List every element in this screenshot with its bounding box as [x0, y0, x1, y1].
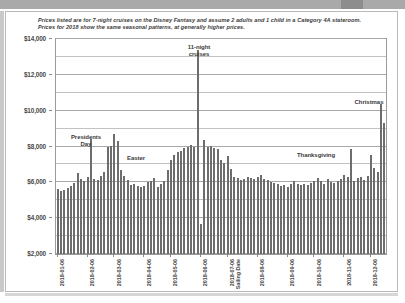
bar	[183, 148, 185, 254]
bar	[280, 186, 282, 254]
y-tick-mark	[49, 74, 52, 75]
bar	[297, 184, 299, 254]
y-tick-label: $8,000	[0, 142, 46, 149]
bar	[187, 147, 189, 255]
x-axis: 2018-01-062018-02-062018-03-062018-04-06…	[55, 254, 386, 302]
x-tick-mark	[200, 254, 201, 257]
x-tick-label: 2018-06-06	[202, 259, 208, 286]
bar	[80, 179, 82, 254]
bar	[160, 184, 162, 254]
bar	[333, 183, 335, 254]
bar	[127, 180, 129, 254]
bar	[327, 179, 329, 254]
bar	[263, 179, 265, 254]
bar	[110, 146, 112, 254]
x-tick-mark	[313, 254, 314, 257]
annotation-presidents-day: Presidents Day	[62, 134, 110, 148]
bar	[97, 180, 99, 254]
bar	[293, 181, 295, 254]
bar	[370, 155, 372, 254]
bar	[173, 155, 175, 254]
bar	[113, 134, 115, 254]
bar	[380, 104, 382, 254]
bar	[70, 186, 72, 254]
bar	[247, 177, 249, 254]
bar	[350, 149, 352, 254]
x-tick-mark	[257, 254, 258, 257]
bar	[343, 175, 345, 254]
bar	[167, 170, 169, 254]
y-tick-mark	[49, 253, 52, 254]
x-tick-mark	[287, 254, 288, 257]
page-container: Prices listed are for 7-night cruises on…	[0, 0, 405, 303]
bar	[340, 179, 342, 254]
bar	[143, 186, 145, 254]
bar	[357, 178, 359, 254]
bar	[63, 190, 65, 255]
bar	[217, 149, 219, 254]
bar	[120, 170, 122, 254]
bar	[233, 177, 235, 254]
bar	[157, 187, 159, 254]
bar	[270, 182, 272, 254]
bar	[150, 181, 152, 254]
bar	[317, 178, 319, 254]
bar	[180, 151, 182, 254]
bar	[287, 187, 289, 254]
x-axis-title: Sailing Date	[235, 259, 241, 289]
bar	[220, 160, 222, 254]
bar	[103, 172, 105, 254]
bar	[290, 184, 292, 254]
bar	[260, 175, 262, 254]
x-tick-label: 2018-09-06	[289, 259, 295, 286]
bar	[213, 148, 215, 254]
y-tick-mark	[49, 38, 52, 39]
x-tick-label: 2018-03-06	[116, 259, 122, 286]
bar	[300, 185, 302, 254]
y-tick-mark	[49, 146, 52, 147]
bar	[73, 183, 75, 254]
x-tick-label: 2018-04-06	[146, 259, 152, 286]
bar	[200, 224, 202, 254]
bar	[123, 176, 125, 254]
bar	[170, 160, 172, 254]
bar	[177, 152, 179, 254]
bar	[360, 177, 362, 254]
bar	[303, 184, 305, 254]
bar	[57, 189, 59, 254]
x-tick-label: 2018-11-06	[346, 259, 352, 286]
annotation-thanksgiving: Thanksgiving	[290, 152, 342, 159]
x-tick-label: 2018-05-06	[172, 259, 178, 286]
bar	[313, 181, 315, 254]
bar	[267, 180, 269, 254]
annotation-easter: Easter	[118, 155, 154, 162]
bar	[190, 145, 192, 254]
y-tick-mark	[49, 217, 52, 218]
x-tick-label: 2018-07-06	[229, 259, 235, 286]
x-tick-mark	[227, 254, 228, 257]
bar	[130, 185, 132, 254]
bar	[207, 147, 209, 255]
bar	[133, 184, 135, 254]
bar	[353, 181, 355, 254]
x-tick-label: 2018-02-06	[89, 259, 95, 286]
bar	[273, 183, 275, 254]
bar	[137, 186, 139, 254]
bar-chart: $2,000$4,000$6,000$8,000$10,000$12,000$1…	[0, 0, 405, 303]
bar	[163, 181, 165, 254]
bar	[140, 187, 142, 254]
bar	[240, 180, 242, 254]
x-tick-mark	[57, 254, 58, 257]
y-tick-label: $4,000	[0, 214, 46, 221]
bar	[373, 168, 375, 254]
bar	[60, 191, 62, 254]
bar	[67, 188, 69, 254]
bar	[330, 182, 332, 254]
x-tick-mark	[113, 254, 114, 257]
bar	[153, 178, 155, 254]
bar	[107, 147, 109, 254]
x-tick-mark	[343, 254, 344, 257]
bar	[250, 178, 252, 254]
x-tick-mark	[370, 254, 371, 257]
annotation-christmas: Christmas	[348, 99, 390, 106]
